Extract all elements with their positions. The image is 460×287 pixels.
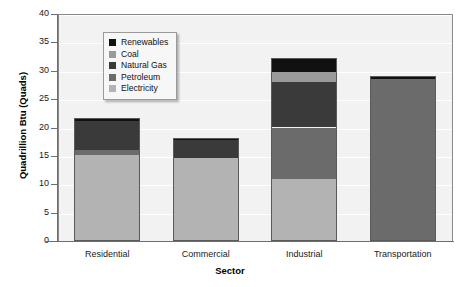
bar-segment-electricity[interactable]: [271, 179, 337, 241]
x-tick-label: Transportation: [348, 249, 458, 259]
bar-segment-natural-gas[interactable]: [74, 121, 140, 150]
bar-segment-natural-gas[interactable]: [173, 140, 239, 158]
bar-segment-renewables[interactable]: [271, 58, 337, 73]
bar-commercial[interactable]: [173, 14, 239, 241]
legend-swatch-icon: [109, 62, 116, 69]
legend-item-coal[interactable]: Coal: [109, 49, 168, 61]
chart-legend: RenewablesCoalNatural GasPetroleumElectr…: [103, 32, 177, 100]
y-tick-label: 20: [9, 123, 49, 132]
y-tick-label: 15: [9, 151, 49, 160]
bar-industrial[interactable]: [271, 14, 337, 241]
x-axis-title: Sector: [0, 265, 460, 276]
bar-segment-petroleum[interactable]: [271, 128, 337, 179]
legend-label: Coal: [121, 50, 139, 59]
bar-transportation[interactable]: [370, 14, 436, 241]
bar-segment-electricity[interactable]: [74, 155, 140, 241]
y-tick-label: 10: [9, 179, 49, 188]
legend-label: Renewables: [121, 38, 168, 47]
x-tick-label: Industrial: [249, 249, 359, 259]
legend-item-electricity[interactable]: Electricity: [109, 83, 168, 95]
bar-segment-renewables[interactable]: [173, 138, 239, 140]
y-tick-label: 0: [9, 236, 49, 245]
bar-segment-electricity[interactable]: [173, 158, 239, 241]
y-tick-label: 25: [9, 94, 49, 103]
legend-label: Natural Gas: [121, 61, 167, 70]
x-tick-label: Commercial: [151, 249, 261, 259]
y-tick-label: 35: [9, 37, 49, 46]
legend-item-renewables[interactable]: Renewables: [109, 37, 168, 49]
legend-item-natural-gas[interactable]: Natural Gas: [109, 60, 168, 72]
bar-segment-petroleum[interactable]: [370, 79, 436, 241]
legend-label: Petroleum: [121, 73, 160, 82]
bar-segment-renewables[interactable]: [370, 76, 436, 79]
legend-label: Electricity: [121, 84, 158, 93]
bar-segment-petroleum[interactable]: [74, 150, 140, 155]
y-axis-tick-group: 0510152025303540: [0, 0, 49, 287]
y-tick-label: 30: [9, 66, 49, 75]
legend-swatch-icon: [109, 39, 116, 46]
bar-segment-natural-gas[interactable]: [271, 82, 337, 128]
y-tick-label: 5: [9, 208, 49, 217]
legend-swatch-icon: [109, 85, 116, 92]
y-tick-label: 40: [9, 9, 49, 18]
x-tick-label: Residential: [52, 249, 162, 259]
bar-segment-renewables[interactable]: [74, 118, 140, 121]
legend-swatch-icon: [109, 74, 116, 81]
stacked-bar-chart: Quadrillion Btu (Quads) 0510152025303540…: [0, 0, 460, 287]
x-axis-line: [45, 241, 454, 242]
legend-item-petroleum[interactable]: Petroleum: [109, 72, 168, 84]
legend-swatch-icon: [109, 51, 116, 58]
bar-segment-coal[interactable]: [271, 72, 337, 81]
